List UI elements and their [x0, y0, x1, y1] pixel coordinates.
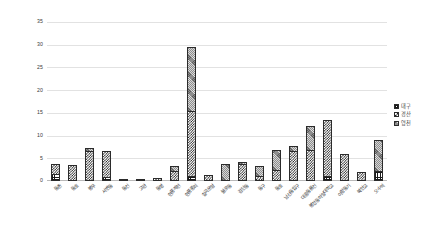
x-axis-tick-label: 동명: [155, 183, 164, 192]
bar-segment-경산[interactable]: [153, 178, 162, 181]
x-axis-tick-label: 동호: [274, 183, 283, 192]
x-axis-tick-labels: 동촌동호봉무서변동동신고관동명현풍계천현풍중리칠곡운암불로동검단동동구동호남산동…: [47, 183, 387, 245]
bar-segment-경산[interactable]: [272, 170, 281, 181]
bar-group[interactable]: [319, 22, 336, 181]
bar-stack: [68, 22, 77, 181]
bar-group[interactable]: [81, 22, 98, 181]
legend-item[interactable]: 경산: [394, 112, 430, 117]
legend-label: 대구: [401, 104, 411, 109]
bar-stack: [289, 22, 298, 181]
bar-group[interactable]: [98, 22, 115, 181]
y-axis-tick-label: 25: [19, 65, 43, 70]
bar-stack: [153, 22, 162, 181]
bar-segment-영천[interactable]: [374, 140, 383, 171]
bar-segment-영천[interactable]: [221, 164, 230, 181]
bar-group[interactable]: [64, 22, 81, 181]
bar-segment-경산[interactable]: [204, 175, 213, 181]
bar-segment-경산[interactable]: [357, 172, 366, 181]
bar-group[interactable]: [268, 22, 285, 181]
x-axis-tick-label: 북안교: [356, 183, 368, 195]
x-axis-tick-label: 봉무: [87, 183, 96, 192]
bar-group[interactable]: [370, 22, 387, 181]
bar-segment-대구[interactable]: [102, 177, 111, 181]
bar-stack: [51, 22, 60, 181]
legend-label: 영천: [401, 121, 411, 126]
bar-groups: [47, 22, 387, 181]
bar-segment-경산[interactable]: [136, 179, 145, 181]
legend-label: 경산: [401, 112, 411, 117]
bar-stack: [238, 22, 247, 181]
bar-stack: [306, 22, 315, 181]
bar-stack: [272, 22, 281, 181]
bar-stack: [255, 22, 264, 181]
x-axis-tick-label: 칠곡운암: [200, 183, 215, 198]
legend-swatch: [394, 121, 399, 126]
bar-group[interactable]: [132, 22, 149, 181]
bar-stack: [170, 22, 179, 181]
x-axis-tick-label: 현풍계천: [166, 183, 181, 198]
bar-chart: 05101520253035 동촌동호봉무서변동동신고관동명현풍계천현풍중리칠곡…: [0, 0, 432, 246]
bar-group[interactable]: [285, 22, 302, 181]
bar-group[interactable]: [217, 22, 234, 181]
bar-stack: [374, 22, 383, 181]
bar-group[interactable]: [47, 22, 64, 181]
bar-segment-경산[interactable]: [102, 151, 111, 177]
bar-segment-대구[interactable]: [323, 176, 332, 181]
bar-segment-영천[interactable]: [306, 126, 315, 151]
bar-segment-영천[interactable]: [187, 47, 196, 111]
bar-segment-대구[interactable]: [187, 176, 196, 181]
legend-item[interactable]: 대구: [394, 104, 430, 109]
y-axis-tick-label: 30: [19, 42, 43, 47]
x-axis-tick-label: 동신: [121, 183, 130, 192]
bar-segment-경산[interactable]: [68, 165, 77, 181]
x-axis-tick-label: 아량동기: [336, 183, 351, 198]
bar-group[interactable]: [251, 22, 268, 181]
x-axis-tick-label: 동촌: [53, 183, 62, 192]
x-axis-tick-label: 불로동: [220, 183, 232, 195]
bar-group[interactable]: [183, 22, 200, 181]
bar-segment-경산[interactable]: [187, 111, 196, 177]
bar-stack: [357, 22, 366, 181]
y-axis-tick-label: 10: [19, 133, 43, 138]
y-axis-tick-label: 5: [19, 156, 43, 161]
bar-stack: [85, 22, 94, 181]
bar-segment-경산[interactable]: [255, 176, 264, 181]
bar-stack: [340, 22, 349, 181]
bar-group[interactable]: [166, 22, 183, 181]
bar-group[interactable]: [115, 22, 132, 181]
y-axis-tick-label: 35: [19, 19, 43, 24]
y-axis-tick-label: 20: [19, 88, 43, 93]
bar-stack: [221, 22, 230, 181]
bar-segment-대구[interactable]: [51, 174, 60, 181]
y-axis-tick-label: 0: [19, 178, 43, 183]
x-axis-tick-label: 남산동입구: [282, 183, 300, 201]
bar-segment-경산[interactable]: [306, 150, 315, 181]
x-axis-tick-label: 서변동: [101, 183, 113, 195]
chart-legend: 대구경산영천: [394, 103, 430, 126]
x-axis-tick-label: 현풍중리: [183, 183, 198, 198]
x-axis-tick-label: 검단동: [237, 183, 249, 195]
legend-swatch: [394, 112, 399, 117]
bar-segment-영천[interactable]: [255, 166, 264, 176]
bar-group[interactable]: [353, 22, 370, 181]
bar-segment-경산[interactable]: [51, 164, 60, 174]
legend-swatch: [394, 104, 399, 109]
bar-stack: [187, 22, 196, 181]
bar-segment-경산[interactable]: [119, 179, 128, 181]
x-axis-tick-label: 동호: [70, 183, 79, 192]
bar-segment-경산[interactable]: [323, 120, 332, 177]
bar-segment-경산[interactable]: [238, 164, 247, 181]
bar-group[interactable]: [336, 22, 353, 181]
bar-group[interactable]: [302, 22, 319, 181]
bar-segment-경산[interactable]: [85, 151, 94, 181]
bar-segment-경산[interactable]: [340, 154, 349, 181]
bar-group[interactable]: [200, 22, 217, 181]
bar-segment-영천[interactable]: [272, 150, 281, 170]
bar-segment-경산[interactable]: [170, 171, 179, 181]
x-axis-tick-label: 동구: [257, 183, 266, 192]
legend-item[interactable]: 영천: [394, 121, 430, 126]
bar-group[interactable]: [234, 22, 251, 181]
bar-segment-대구[interactable]: [374, 171, 383, 181]
bar-group[interactable]: [149, 22, 166, 181]
bar-segment-경산[interactable]: [289, 151, 298, 181]
